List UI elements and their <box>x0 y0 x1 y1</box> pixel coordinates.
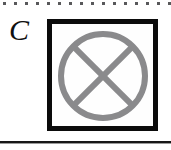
symbol-canvas <box>52 24 153 126</box>
separator-dot <box>146 2 149 5</box>
separator-dot <box>168 2 171 5</box>
dotted-separator <box>0 2 171 7</box>
separator-dot <box>102 2 105 5</box>
bounding-square <box>47 19 158 131</box>
separator-dot <box>14 2 17 5</box>
separator-dot <box>91 2 94 5</box>
separator-dot <box>135 2 138 5</box>
solid-separator-shadow <box>0 143 171 144</box>
panel-label: C <box>9 14 39 46</box>
separator-dot <box>80 2 83 5</box>
separator-dot <box>3 2 6 5</box>
separator-dot <box>58 2 61 5</box>
separator-dot <box>36 2 39 5</box>
circle-with-x-icon <box>52 24 153 126</box>
separator-dot <box>47 2 50 5</box>
separator-dot <box>69 2 72 5</box>
separator-dot <box>124 2 127 5</box>
separator-dot <box>157 2 160 5</box>
separator-dot <box>113 2 116 5</box>
figure-panel: C <box>0 0 171 150</box>
separator-dot <box>25 2 28 5</box>
